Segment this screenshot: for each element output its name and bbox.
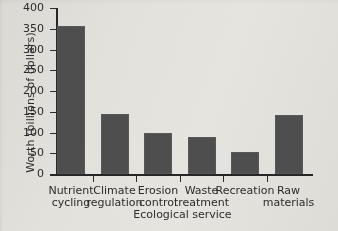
y-tick-label-150: 150 [10,106,44,117]
y-tick-label-100: 100 [10,127,44,138]
x-tick-1 [93,176,94,182]
y-tick-label-300: 300 [10,44,44,55]
y-tick-150 [50,112,57,113]
x-tick-5 [267,176,268,182]
y-tick-100 [50,133,57,134]
y-tick-label-250: 250 [10,64,44,75]
bar-recreation [231,152,259,174]
y-tick-300 [50,50,57,51]
x-tick-2 [136,176,137,182]
y-tick-label-400: 400 [10,2,44,13]
x-axis-line [50,174,313,176]
y-tick-350 [50,29,57,30]
y-tick-label-200: 200 [10,85,44,96]
y-tick-0 [50,174,57,175]
bar-chart-figure: Worth (billions of dollars) 050100150200… [0,0,338,231]
x-axis-label: Ecological service [50,208,315,221]
y-tick-label-0: 0 [10,168,44,179]
bar-raw-materials [275,115,303,174]
y-tick-50 [50,153,57,154]
y-tick-label-50: 50 [10,147,44,158]
bar-climate-regulation [101,114,129,174]
y-tick-400 [50,8,57,9]
x-tick-4 [223,176,224,182]
y-tick-250 [50,70,57,71]
y-tick-200 [50,91,57,92]
y-tick-label-350: 350 [10,23,44,34]
bar-erosion-control [144,133,172,174]
bar-waste-treatment [188,137,216,174]
x-tick-3 [180,176,181,182]
bar-nutrient-cycling [57,26,85,174]
